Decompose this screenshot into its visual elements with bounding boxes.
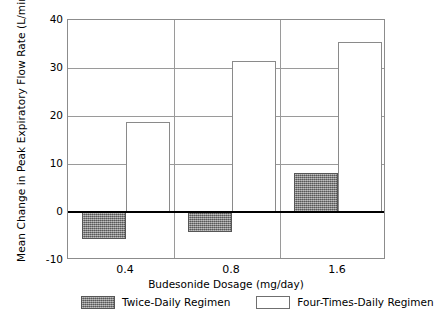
zero-baseline <box>68 211 384 213</box>
gridline-30 <box>68 68 384 69</box>
bar-twice-daily-1.6 <box>294 173 338 212</box>
legend-label-twice-daily: Twice-Daily Regimen <box>122 296 230 308</box>
legend-label-four-times-daily: Four-Times-Daily Regimen <box>297 296 433 308</box>
x-tick-label: 0.8 <box>201 263 261 277</box>
x-tick-label: 0.4 <box>95 263 155 277</box>
y-tick-label: 0 <box>39 206 63 217</box>
bar-four-times-daily-0.4 <box>126 122 170 213</box>
y-tick-label: 40 <box>39 14 63 25</box>
y-axis-title: Mean Change in Peak Expiratory Flow Rate… <box>12 12 30 262</box>
y-tick-label: 30 <box>39 62 63 73</box>
legend-swatch-icon-four-times-daily <box>256 296 290 309</box>
legend-entry-four-times-daily: Four-Times-Daily Regimen <box>256 296 433 309</box>
y-tick-label: 20 <box>39 110 63 121</box>
x-tick-label: 1.6 <box>307 263 367 277</box>
bar-four-times-daily-1.6 <box>338 42 382 213</box>
plot-area <box>67 19 385 259</box>
gridline-vertical-2 <box>280 20 281 258</box>
y-axis-tick-labels: 40 30 20 10 0 -10 <box>37 19 63 259</box>
gridline-20 <box>68 116 384 117</box>
bar-twice-daily-0.8 <box>188 212 232 232</box>
chart-legend: Twice-Daily Regimen Four-Times-Daily Reg… <box>67 292 385 312</box>
gridline-10 <box>68 164 384 165</box>
y-tick-label: -10 <box>39 254 63 265</box>
gridline-vertical-1 <box>174 20 175 258</box>
legend-entry-twice-daily: Twice-Daily Regimen <box>81 296 230 309</box>
y-tick-label: 10 <box>39 158 63 169</box>
bar-four-times-daily-0.8 <box>232 61 276 213</box>
legend-swatch-icon-twice-daily <box>81 296 115 309</box>
bar-twice-daily-0.4 <box>82 212 126 239</box>
x-axis-title: Budesonide Dosage (mg/day) <box>67 277 385 291</box>
